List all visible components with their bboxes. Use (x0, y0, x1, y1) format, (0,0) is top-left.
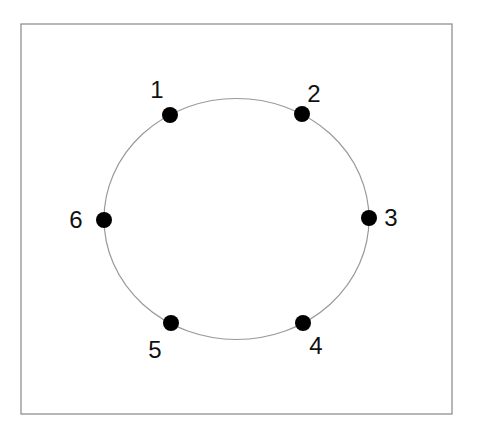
node-4 (295, 315, 311, 331)
node-6 (96, 212, 112, 228)
node-5 (163, 315, 179, 331)
ring-ellipse (104, 99, 369, 340)
node-label-1: 1 (150, 76, 163, 103)
node-3 (361, 210, 377, 226)
node-label-4: 4 (309, 332, 322, 359)
nodes-group: 123456 (69, 76, 397, 363)
node-label-5: 5 (148, 336, 161, 363)
node-1 (162, 107, 178, 123)
node-label-2: 2 (307, 80, 320, 107)
node-label-6: 6 (69, 206, 82, 233)
node-2 (294, 106, 310, 122)
node-label-3: 3 (384, 204, 397, 231)
ring-diagram: 123456 (0, 0, 477, 438)
